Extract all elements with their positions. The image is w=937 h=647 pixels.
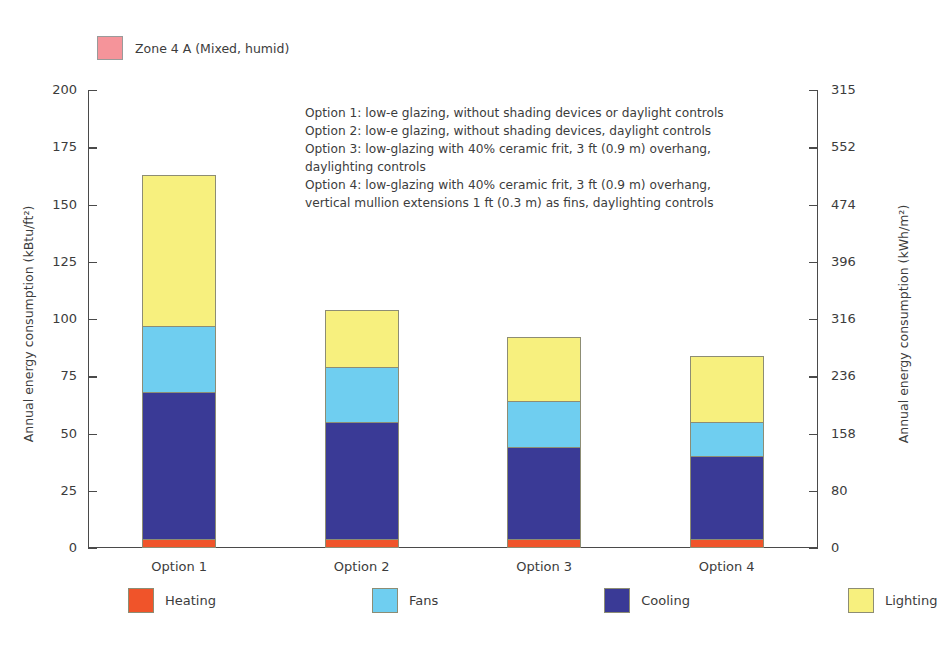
y-tick-label-right: 474	[831, 198, 856, 211]
y-tick-label-right: 552	[831, 140, 856, 153]
bar-stack[interactable]	[325, 310, 399, 548]
bars-layer: Option 1Option 2Option 3Option 4	[88, 90, 818, 548]
legend-label-cooling: Cooling	[641, 593, 690, 608]
y-tick-label-left: 200	[52, 83, 77, 96]
bar-group: Option 1	[142, 90, 216, 548]
y-tick-label-left: 0	[69, 541, 77, 554]
plot-area: 0255075100125150175200 08015823631639647…	[88, 90, 818, 548]
legend-entry-fans[interactable]: Fans	[372, 588, 438, 613]
legend-entry-cooling[interactable]: Cooling	[604, 588, 690, 613]
bar-segment-lighting[interactable]	[142, 175, 216, 326]
bar-group: Option 3	[507, 90, 581, 548]
y-tick-label-left: 25	[60, 484, 77, 497]
bar-segment-cooling[interactable]	[507, 447, 581, 539]
zone-legend: Zone 4 A (Mixed, humid)	[97, 36, 289, 60]
x-tick-label: Option 1	[151, 559, 207, 574]
bar-segment-fans[interactable]	[690, 422, 764, 456]
legend-swatch-fans	[372, 588, 398, 613]
zone-color-swatch	[97, 36, 123, 60]
legend-entry-heating[interactable]: Heating	[128, 588, 216, 613]
x-tick-label: Option 3	[516, 559, 572, 574]
bar-group: Option 2	[325, 90, 399, 548]
y-tick-label-left: 175	[52, 140, 77, 153]
y-axis-title-primary: Annual energy consumption (kBtu/ft²)	[21, 205, 36, 442]
bar-segment-lighting[interactable]	[325, 310, 399, 367]
bar-segment-fans[interactable]	[142, 326, 216, 392]
zone-legend-label: Zone 4 A (Mixed, humid)	[135, 41, 289, 56]
legend-entry-lighting[interactable]: Lighting	[848, 588, 937, 613]
y-tick-label-right: 80	[831, 484, 848, 497]
y-tick-label-right: 236	[831, 369, 856, 382]
bar-segment-heating[interactable]	[507, 539, 581, 548]
y-tick-label-left: 150	[52, 198, 77, 211]
bar-segment-heating[interactable]	[142, 539, 216, 548]
y-tick-label-right: 315	[831, 83, 856, 96]
y-tick-label-right: 158	[831, 427, 856, 440]
x-tick-label: Option 4	[699, 559, 755, 574]
bar-stack[interactable]	[507, 337, 581, 548]
bar-stack[interactable]	[690, 356, 764, 548]
y-tick-label-left: 100	[52, 312, 77, 325]
y-axis-title-secondary: Annual energy consumption (kWh/m²)	[896, 204, 911, 443]
y-tick-label-left: 125	[52, 255, 77, 268]
legend-label-heating: Heating	[165, 593, 216, 608]
y-tick-label-left: 75	[60, 369, 77, 382]
legend-swatch-cooling	[604, 588, 630, 613]
bar-group: Option 4	[690, 90, 764, 548]
x-tick-label: Option 2	[334, 559, 390, 574]
bar-segment-fans[interactable]	[325, 367, 399, 422]
y-tick-right	[809, 548, 818, 549]
legend-label-lighting: Lighting	[885, 593, 937, 608]
legend-label-fans: Fans	[409, 593, 438, 608]
legend-swatch-lighting	[848, 588, 874, 613]
bar-segment-lighting[interactable]	[507, 337, 581, 401]
bar-segment-heating[interactable]	[690, 539, 764, 548]
bar-stack[interactable]	[142, 175, 216, 548]
y-tick-label-right: 316	[831, 312, 856, 325]
bar-segment-heating[interactable]	[325, 539, 399, 548]
bar-segment-lighting[interactable]	[690, 356, 764, 422]
bar-segment-cooling[interactable]	[325, 422, 399, 539]
bar-segment-cooling[interactable]	[690, 456, 764, 538]
series-legend: HeatingFansCoolingLighting	[128, 588, 937, 613]
legend-swatch-heating	[128, 588, 154, 613]
y-tick-label-right: 396	[831, 255, 856, 268]
y-tick-label-left: 50	[60, 427, 77, 440]
bar-segment-cooling[interactable]	[142, 392, 216, 539]
y-tick-left	[88, 548, 97, 549]
bar-segment-fans[interactable]	[507, 401, 581, 447]
y-tick-label-right: 0	[831, 541, 839, 554]
